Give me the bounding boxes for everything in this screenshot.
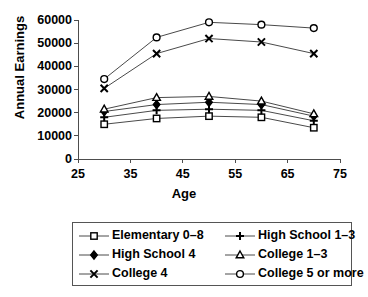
y-axis-title: Annual Earnings <box>12 13 27 123</box>
chart-figure: 0100002000030000400005000060000 25354555… <box>0 0 368 297</box>
x-tick-label: 35 <box>110 168 150 181</box>
x-tick-label: 55 <box>215 168 255 181</box>
legend-marker-cross-x <box>79 267 109 281</box>
legend-entry[interactable]: Elementary 0–8 <box>79 226 225 245</box>
marker-open-triangle <box>310 110 318 117</box>
y-tick-label: 30000 <box>20 84 72 97</box>
y-tick-label: 40000 <box>20 60 72 73</box>
legend-label: College 1–3 <box>258 248 327 261</box>
marker-open-square <box>311 125 317 131</box>
axis-lines <box>78 20 340 159</box>
x-glyph <box>310 50 317 57</box>
marker-plus <box>236 232 244 240</box>
series-0 <box>101 113 317 131</box>
series-line <box>104 39 314 89</box>
legend-label: College 4 <box>112 267 168 280</box>
y-tick-label: 50000 <box>20 37 72 50</box>
marker-filled-diamond <box>153 100 160 108</box>
marker-open-circle <box>206 19 213 26</box>
marker-open-square <box>153 115 159 121</box>
legend-entry[interactable]: High School 4 <box>79 245 225 264</box>
marker-open-triangle <box>205 92 213 99</box>
plus-glyph <box>236 232 244 240</box>
legend-marker-filled-diamond <box>79 248 109 262</box>
chart-legend: Elementary 0–8High School 1–3High School… <box>72 222 352 286</box>
data-series-group <box>100 19 318 131</box>
legend-entry[interactable]: High School 1–3 <box>225 226 353 245</box>
marker-cross-x <box>101 85 108 92</box>
x-tick-label: 45 <box>163 168 203 181</box>
y-tick-label: 0 <box>20 153 72 166</box>
legend-marker-plus <box>225 229 255 243</box>
marker-open-circle <box>237 270 244 277</box>
series-5 <box>101 19 317 83</box>
marker-open-square <box>91 232 97 238</box>
legend-label: High School 1–3 <box>258 229 355 242</box>
marker-open-circle <box>153 34 160 41</box>
square-glyph <box>206 113 212 119</box>
triangle-glyph <box>258 97 266 104</box>
x-axis-title: Age <box>0 186 368 201</box>
triangle-glyph <box>236 251 244 258</box>
y-tick-label: 60000 <box>20 14 72 27</box>
x-glyph <box>101 85 108 92</box>
marker-open-circle <box>310 25 317 32</box>
marker-open-circle <box>101 76 108 83</box>
marker-cross-x <box>153 50 160 57</box>
circle-glyph <box>101 76 108 83</box>
marker-open-square <box>258 114 264 120</box>
circle-glyph <box>310 25 317 32</box>
x-glyph <box>153 50 160 57</box>
square-glyph <box>101 121 107 127</box>
circle-glyph <box>237 270 244 277</box>
square-glyph <box>258 114 264 120</box>
square-glyph <box>91 232 97 238</box>
legend-entry[interactable]: College 1–3 <box>225 245 353 264</box>
triangle-glyph <box>205 92 213 99</box>
marker-open-circle <box>258 21 265 28</box>
triangle-glyph <box>100 105 108 112</box>
diamond-glyph <box>91 250 98 258</box>
legend-grid: Elementary 0–8High School 1–3High School… <box>79 226 347 282</box>
x-tick-label: 65 <box>268 168 308 181</box>
y-tick-label: 20000 <box>20 107 72 120</box>
marker-open-triangle <box>100 105 108 112</box>
legend-marker-open-square <box>79 229 109 243</box>
y-tick-label: 10000 <box>20 130 72 143</box>
circle-glyph <box>206 19 213 26</box>
marker-open-triangle <box>236 251 244 258</box>
triangle-glyph <box>310 110 318 117</box>
x-tick-label: 75 <box>320 168 360 181</box>
legend-marker-open-circle <box>225 267 255 281</box>
triangle-glyph <box>153 94 161 101</box>
marker-cross-x <box>310 50 317 57</box>
square-glyph <box>311 125 317 131</box>
legend-label: High School 4 <box>112 248 195 261</box>
series-line <box>104 22 314 79</box>
circle-glyph <box>258 21 265 28</box>
x-tick-label: 25 <box>58 168 98 181</box>
circle-glyph <box>153 34 160 41</box>
plot-area: 0100002000030000400005000060000 25354555… <box>0 0 368 210</box>
legend-label: College 5 or more <box>258 267 364 280</box>
legend-entry[interactable]: College 5 or more <box>225 264 353 283</box>
marker-open-triangle <box>153 94 161 101</box>
legend-entry[interactable]: College 4 <box>79 264 225 283</box>
marker-open-square <box>206 113 212 119</box>
legend-marker-open-triangle <box>225 248 255 262</box>
square-glyph <box>153 115 159 121</box>
legend-label: Elementary 0–8 <box>112 229 204 242</box>
marker-open-triangle <box>258 97 266 104</box>
diamond-glyph <box>153 100 160 108</box>
series-4 <box>101 35 318 92</box>
marker-open-square <box>101 121 107 127</box>
marker-filled-diamond <box>91 250 98 258</box>
